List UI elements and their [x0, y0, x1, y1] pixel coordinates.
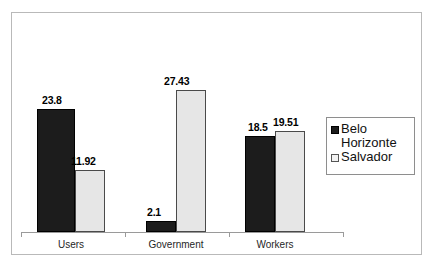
bar-belo-horizonte-users[interactable] — [37, 109, 75, 232]
bar-value-label: 23.8 — [42, 94, 62, 106]
legend-label-continuation: Horizonte — [341, 136, 397, 150]
bar-value-label: 27.43 — [164, 75, 189, 87]
bar-value-label: 11.92 — [71, 155, 96, 167]
category-label-government: Government — [136, 239, 216, 250]
legend-item-belo-horizonte[interactable]: Belo — [331, 122, 367, 136]
category-label-workers: Workers — [235, 239, 315, 250]
bar-value-label: 18.5 — [248, 121, 268, 133]
legend-label: Belo — [341, 122, 367, 136]
legend-label: Salvador — [341, 150, 392, 164]
bar-value-label: 19.51 — [273, 116, 298, 128]
bar-value-label: 2.1 — [147, 206, 161, 218]
x-axis-tick — [343, 233, 344, 237]
legend-item-salvador[interactable]: Salvador — [331, 150, 392, 164]
bar-salvador-users[interactable] — [75, 170, 105, 232]
bar-salvador-workers[interactable] — [275, 131, 305, 232]
chart-frame: 23.8 11.92 Users 2.1 27.43 Government 18… — [11, 12, 422, 255]
plot-area: 23.8 11.92 Users 2.1 27.43 Government 18… — [12, 13, 423, 256]
bar-belo-horizonte-workers[interactable] — [245, 136, 275, 232]
chart-legend: Belo Horizonte Salvador — [326, 117, 415, 175]
x-axis-tick — [229, 233, 230, 237]
bar-salvador-government[interactable] — [176, 90, 206, 232]
hollow-square-icon — [331, 154, 339, 162]
filled-square-icon — [331, 126, 339, 134]
x-axis-line — [21, 232, 344, 233]
bar-belo-horizonte-government[interactable] — [146, 221, 176, 232]
x-axis-tick — [125, 233, 126, 237]
x-axis-tick — [21, 233, 22, 237]
category-label-users: Users — [31, 239, 111, 250]
